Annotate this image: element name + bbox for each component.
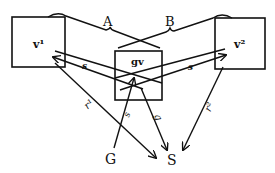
gv-label: gv: [131, 56, 145, 67]
edge-label-gv-S-g: g: [152, 112, 165, 122]
brace-b-label: B: [165, 14, 175, 29]
edge-label-r2: r²: [202, 101, 216, 114]
v1-label: v¹: [32, 38, 44, 51]
brace-a-label: A: [102, 14, 113, 29]
G-label: G: [105, 151, 116, 167]
edge-label-v1-gv-s: s: [82, 61, 87, 71]
diagram-canvas: v¹ gv v² G S A B s s r¹ s g r²: [0, 0, 275, 173]
v2-label: v²: [233, 38, 245, 51]
edge-label-gv-v2-s: s: [188, 62, 193, 72]
S-label: S: [167, 152, 177, 168]
